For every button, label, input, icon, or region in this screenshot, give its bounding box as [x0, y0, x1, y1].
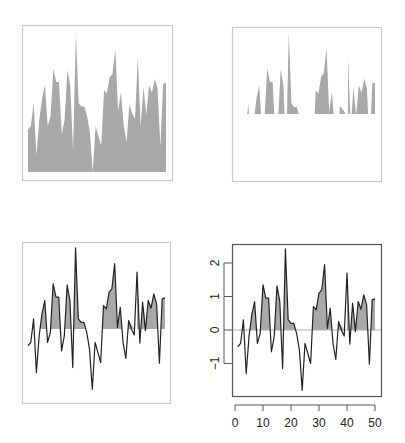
y-tick-label: 2	[208, 259, 222, 266]
figure: 01020304050 −1012	[0, 0, 405, 443]
area-fill-positive	[242, 249, 375, 330]
y-tick-label: 0	[208, 326, 222, 333]
x-axis: 01020304050	[232, 405, 382, 430]
area-fill-positive-only	[247, 32, 375, 114]
x-tick-label: 40	[340, 416, 354, 430]
series-line	[238, 249, 375, 390]
x-tick-label: 50	[368, 416, 382, 430]
panel-bottom-left	[23, 243, 171, 404]
x-tick-label: 20	[284, 416, 298, 430]
panel-top-left	[23, 26, 173, 181]
x-tick-label: 0	[232, 416, 239, 430]
y-tick-label: −1	[208, 356, 222, 370]
x-tick-label: 10	[256, 416, 270, 430]
panel-top-right	[233, 28, 382, 182]
area-fill-to-min	[28, 34, 166, 172]
y-axis: −1012	[208, 259, 232, 370]
area-fill-positive	[32, 248, 165, 329]
y-tick-label: 1	[208, 293, 222, 300]
x-tick-label: 30	[312, 416, 326, 430]
panel-bottom-right: 01020304050 −1012	[208, 245, 382, 431]
series-line	[28, 248, 165, 389]
